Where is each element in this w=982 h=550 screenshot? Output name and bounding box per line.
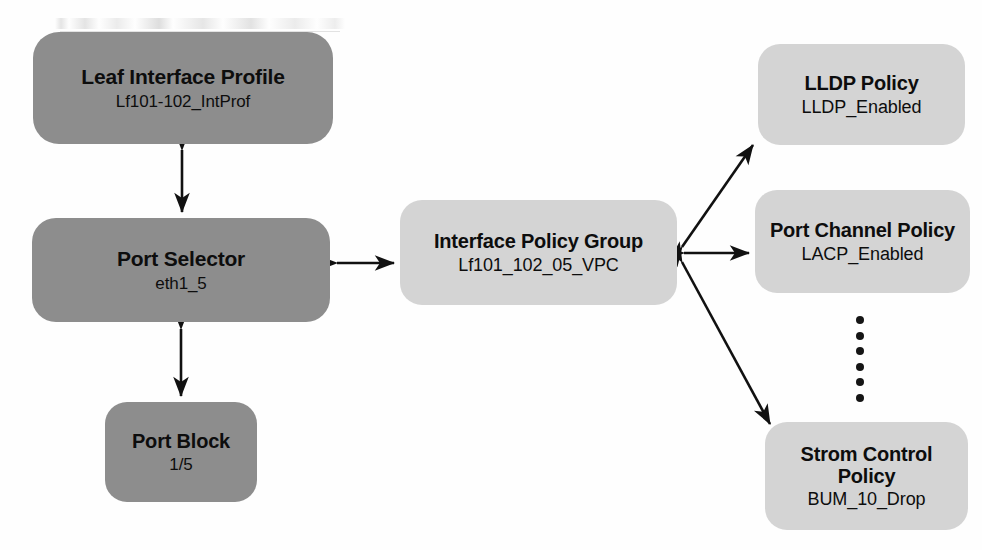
node-title: Port Channel Policy xyxy=(770,219,955,241)
node-subtitle: Lf101-102_IntProf xyxy=(116,92,250,111)
node-interface-policy-group[interactable]: Interface Policy Group Lf101_102_05_VPC xyxy=(400,200,677,305)
node-lldp-policy[interactable]: LLDP Policy LLDP_Enabled xyxy=(758,44,965,145)
node-title: Leaf Interface Profile xyxy=(81,65,284,89)
scan-artifact-text-remnant xyxy=(55,18,345,29)
ellipsis-dot xyxy=(856,347,864,355)
node-subtitle: 1/5 xyxy=(169,455,192,474)
node-port-block[interactable]: Port Block 1/5 xyxy=(105,402,257,502)
node-port-channel-policy[interactable]: Port Channel Policy LACP_Enabled xyxy=(755,190,970,293)
diagram-canvas: Leaf Interface Profile Lf101-102_IntProf… xyxy=(0,0,982,550)
connector-policy-group-to-storm-control xyxy=(682,262,770,424)
node-title: Port Block xyxy=(132,430,230,452)
node-storm-control-policy[interactable]: Strom Control Policy BUM_10_Drop xyxy=(765,422,968,530)
ellipsis-dot xyxy=(856,394,864,402)
ellipsis-dot xyxy=(856,332,864,340)
ellipsis-more-policies xyxy=(852,316,868,402)
ellipsis-dot xyxy=(856,316,864,324)
node-title: Interface Policy Group xyxy=(434,230,643,252)
node-leaf-interface-profile[interactable]: Leaf Interface Profile Lf101-102_IntProf xyxy=(33,32,333,144)
ellipsis-dot xyxy=(856,378,864,386)
node-subtitle: BUM_10_Drop xyxy=(808,489,926,509)
node-subtitle: Lf101_102_05_VPC xyxy=(458,255,619,275)
node-subtitle: eth1_5 xyxy=(155,274,206,293)
ellipsis-dot xyxy=(856,363,864,371)
node-subtitle: LLDP_Enabled xyxy=(802,97,922,117)
connector-policy-group-to-lldp xyxy=(682,145,753,247)
node-subtitle: LACP_Enabled xyxy=(802,244,924,264)
node-port-selector[interactable]: Port Selector eth1_5 xyxy=(32,218,330,322)
node-title: Port Selector xyxy=(117,247,245,271)
node-title: LLDP Policy xyxy=(804,72,918,94)
node-title: Strom Control Policy xyxy=(773,443,960,488)
